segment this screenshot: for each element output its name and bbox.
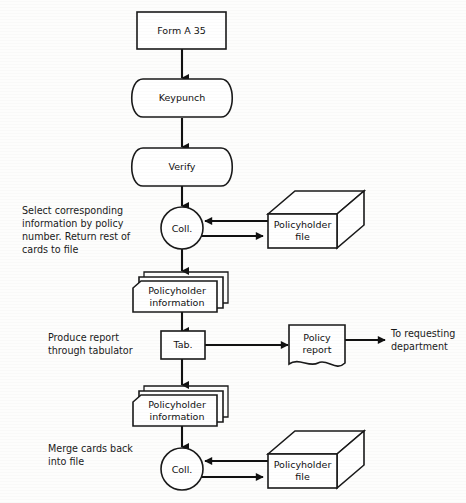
node-collate-top[interactable]: Coll. bbox=[161, 207, 203, 249]
cards-bottom-label-line2: information bbox=[150, 411, 205, 422]
annotation-produce-line-2: through tabulator bbox=[48, 345, 133, 356]
annotation-produce-line-1: Produce report bbox=[48, 332, 119, 343]
node-keypunch[interactable]: Keypunch bbox=[132, 79, 233, 117]
verify-label: Verify bbox=[169, 161, 196, 172]
annotation-merge-line-1: Merge cards back bbox=[48, 443, 133, 454]
policy-report-label-line1: Policy bbox=[303, 332, 331, 343]
node-form-a-35[interactable]: Form A 35 bbox=[137, 12, 226, 49]
annotation-to-requesting-department: To requesting department bbox=[390, 328, 455, 352]
annotation-select-line-2: information by policy bbox=[22, 218, 124, 229]
node-policyholder-cards-top[interactable]: Policyholder information bbox=[133, 272, 228, 312]
node-collate-bottom[interactable]: Coll. bbox=[161, 448, 203, 490]
policy-report-label-line2: report bbox=[302, 344, 331, 355]
annotation-select-line-1: Select corresponding bbox=[22, 205, 123, 216]
collate-bottom-label: Coll. bbox=[172, 464, 193, 475]
cards-top-label-line2: information bbox=[150, 297, 205, 308]
annotation-select-line-3: number. Return rest of bbox=[22, 231, 131, 242]
collate-top-label: Coll. bbox=[172, 223, 193, 234]
file-top-label-line1: Policyholder bbox=[274, 219, 332, 230]
annotation-merge-line-2: into file bbox=[48, 456, 84, 467]
node-policy-report[interactable]: Policy report bbox=[289, 325, 345, 366]
file-top-label-line2: file bbox=[295, 231, 310, 242]
form-a-35-label: Form A 35 bbox=[157, 25, 206, 36]
annotation-produce-report: Produce report through tabulator bbox=[48, 332, 133, 356]
annotation-select-corresponding: Select corresponding information by poli… bbox=[22, 205, 131, 255]
diagram-canvas: Form A 35 Keypunch Verify Coll. Policyho… bbox=[0, 0, 466, 503]
file-bottom-label-line2: file bbox=[295, 471, 310, 482]
flowchart-svg: Form A 35 Keypunch Verify Coll. Policyho… bbox=[0, 0, 466, 503]
node-tabulate[interactable]: Tab. bbox=[161, 331, 205, 359]
node-policyholder-file-bottom[interactable]: Policyholder file bbox=[268, 431, 364, 488]
annotation-select-line-4: cards to file bbox=[22, 244, 78, 255]
keypunch-label: Keypunch bbox=[159, 92, 206, 103]
annotation-merge-cards: Merge cards back into file bbox=[48, 443, 133, 467]
cards-top-label-line1: Policyholder bbox=[148, 285, 206, 296]
file-bottom-label-line1: Policyholder bbox=[274, 459, 332, 470]
annotation-destination-line-1: To requesting bbox=[390, 328, 455, 339]
cards-bottom-label-line1: Policyholder bbox=[148, 399, 206, 410]
annotation-destination-line-2: department bbox=[391, 341, 448, 352]
node-policyholder-cards-bottom[interactable]: Policyholder information bbox=[133, 386, 228, 426]
node-verify[interactable]: Verify bbox=[132, 148, 233, 186]
node-policyholder-file-top[interactable]: Policyholder file bbox=[268, 191, 364, 248]
tabulate-label: Tab. bbox=[172, 339, 192, 350]
